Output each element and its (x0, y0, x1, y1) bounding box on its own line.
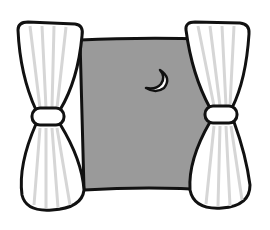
left-curtain-tie (32, 108, 64, 125)
right-curtain-tie (205, 106, 237, 123)
left-curtain (18, 22, 84, 210)
night-window-illustration (0, 0, 270, 230)
